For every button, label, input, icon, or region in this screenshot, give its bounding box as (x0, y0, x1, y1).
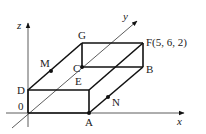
point-M (49, 69, 53, 73)
label-E: E (75, 75, 82, 87)
label-F: F(5, 6, 2) (146, 36, 187, 49)
label-B: B (146, 63, 153, 75)
label-D: D (17, 84, 25, 96)
point-C (80, 65, 84, 69)
point-A (87, 111, 91, 115)
front-face (28, 90, 89, 113)
origin-label: 0 (18, 100, 24, 112)
label-G: G (78, 29, 86, 41)
label-N: N (112, 96, 120, 108)
z-axis-label: z (16, 19, 22, 31)
x-axis-label: x (176, 115, 182, 127)
box-diagram: x y z 0 G F(5, 6, 2) B C E D A M N (0, 0, 206, 134)
label-C: C (73, 62, 80, 74)
label-A: A (85, 116, 93, 128)
y-axis-label: y (122, 10, 128, 22)
point-N (106, 95, 110, 99)
label-M: M (40, 57, 50, 69)
